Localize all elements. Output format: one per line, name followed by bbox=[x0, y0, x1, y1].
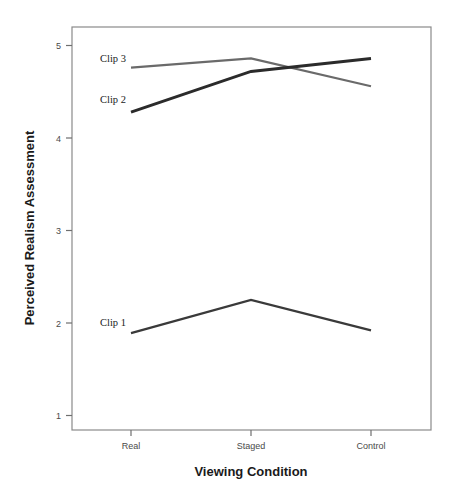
y-tick-label-4: 4 bbox=[56, 134, 61, 144]
y-tick-label-1: 1 bbox=[56, 411, 61, 421]
x-tick-label-real: Real bbox=[122, 441, 141, 451]
line-chart: 5 4 3 2 1 Real Staged Control Viewing Co… bbox=[0, 0, 467, 502]
series-annotation-clip-1: Clip 1 bbox=[100, 317, 126, 328]
y-tick-label-5: 5 bbox=[56, 41, 61, 51]
x-axis-title: Viewing Condition bbox=[194, 464, 307, 479]
x-tick-label-staged: Staged bbox=[237, 441, 266, 451]
x-tick-label-control: Control bbox=[356, 441, 385, 451]
plot-area-frame bbox=[72, 27, 431, 430]
series-annotation-clip-2: Clip 2 bbox=[100, 94, 126, 105]
y-tick-label-2: 2 bbox=[56, 319, 61, 329]
chart-canvas: 5 4 3 2 1 Real Staged Control Viewing Co… bbox=[0, 0, 467, 502]
x-axis-ticks bbox=[131, 430, 371, 436]
y-tick-label-3: 3 bbox=[56, 226, 61, 236]
series-line-clip-1 bbox=[131, 300, 371, 333]
y-axis-ticks bbox=[66, 46, 72, 416]
series-annotation-clip-3: Clip 3 bbox=[100, 53, 126, 64]
series-group bbox=[131, 58, 371, 333]
y-axis-title: Perceived Realism Assessment bbox=[22, 130, 37, 325]
series-line-clip-2 bbox=[131, 58, 371, 112]
